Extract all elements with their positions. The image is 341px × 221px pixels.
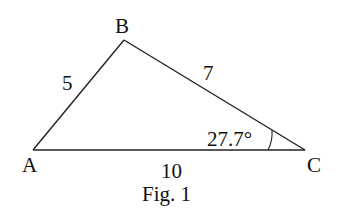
side-ac-label: 10 [161,159,182,183]
figure-caption: Fig. 1 [142,182,191,206]
triangle-diagram: A B C 5 7 10 27.7° Fig. 1 [0,0,341,221]
side-ab [33,40,124,150]
figure-canvas: A B C 5 7 10 27.7° Fig. 1 [0,0,341,221]
angle-c-arc [268,130,272,150]
vertex-a-label: A [22,153,38,177]
vertex-c-label: C [307,153,321,177]
angle-c-label: 27.7° [207,127,252,151]
side-ab-label: 5 [62,71,73,95]
vertex-b-label: B [115,14,129,38]
side-bc-label: 7 [203,61,214,85]
